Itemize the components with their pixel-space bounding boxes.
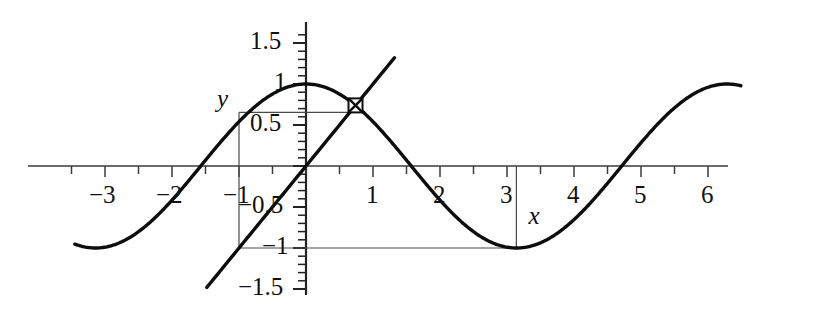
x-tick-label: 5 — [634, 182, 647, 207]
x-tick-label: 2 — [433, 182, 446, 207]
y-axis-label: y — [217, 86, 228, 111]
axes-group — [28, 22, 728, 295]
y-axis-minor-ticks — [298, 35, 306, 281]
y-tick-label: 1 — [274, 69, 287, 94]
y-tick-label: 0.5 — [250, 110, 281, 135]
x-tick-label: −3 — [89, 182, 116, 207]
x-tick-label: 4 — [567, 182, 580, 207]
x-tick-label: 3 — [500, 182, 513, 207]
y-tick-label: −1.5 — [238, 274, 283, 299]
y-tick-label: 1.5 — [250, 28, 281, 53]
chart-figure: −3−2−11234561.510.5−0.5−1−1.5 x y — [0, 0, 840, 318]
y-tick-label: −1 — [262, 233, 289, 258]
y-tick-label: −0.5 — [238, 192, 283, 217]
x-axis-label: x — [528, 203, 539, 228]
intersection-marker — [349, 98, 363, 112]
x-tick-label: 6 — [701, 182, 714, 207]
plot-canvas — [0, 0, 840, 318]
x-tick-label: −2 — [156, 182, 183, 207]
x-tick-label: 1 — [366, 182, 379, 207]
